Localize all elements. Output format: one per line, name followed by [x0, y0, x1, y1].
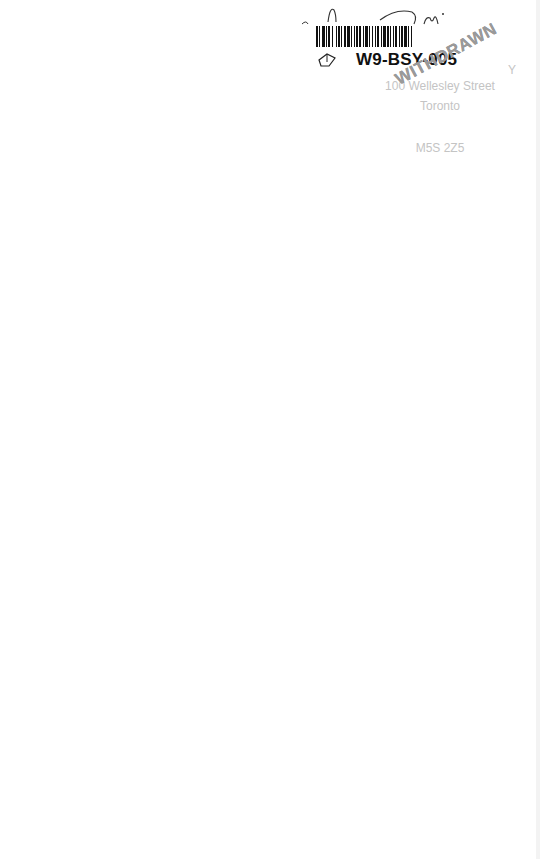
address-street: 100 Wellesley Street [360, 76, 520, 96]
book-icon [317, 52, 337, 68]
document-page: W9-BSY-005 Y 100 Wellesley Street Toront… [0, 0, 540, 859]
page-edge-shadow [536, 0, 540, 859]
address-postal-code: M5S 2Z5 [360, 138, 520, 158]
handwritten-mark [300, 2, 490, 28]
address-city: Toronto [360, 96, 520, 116]
